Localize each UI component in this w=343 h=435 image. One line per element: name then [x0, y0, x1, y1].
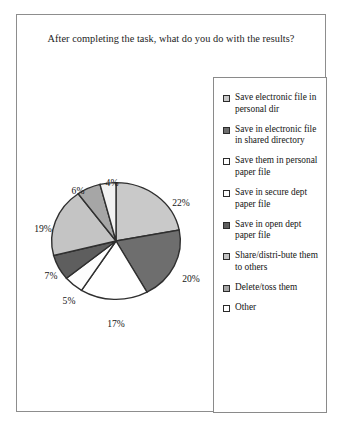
- legend-item: Save in secure dept paper file: [223, 187, 321, 210]
- legend-swatch-icon: [223, 305, 230, 312]
- pie-slice-label: 19%: [34, 223, 52, 234]
- legend-swatch-icon: [223, 253, 230, 260]
- chart-title: After completing the task, what do you d…: [17, 33, 325, 44]
- legend-swatch-icon: [223, 95, 230, 102]
- pie-slice-label: 7%: [45, 270, 58, 281]
- legend-swatch-icon: [223, 222, 230, 229]
- legend-item-label: Save them in personal paper file: [235, 155, 321, 178]
- pie-slice-label: 22%: [172, 197, 190, 208]
- pie-svg: [51, 182, 181, 300]
- legend-item: Share/distri-bute them to others: [223, 250, 321, 273]
- pie-slices: [52, 183, 181, 300]
- legend-swatch-icon: [223, 127, 230, 134]
- legend-item: Save them in personal paper file: [223, 155, 321, 178]
- pie-slice-label: 17%: [107, 318, 125, 329]
- legend: Save electronic file in personal dirSave…: [213, 77, 327, 413]
- legend-item: Other: [223, 302, 321, 314]
- legend-swatch-icon: [223, 158, 230, 165]
- legend-item-label: Share/distri-bute them to others: [235, 250, 321, 273]
- figure-frame: After completing the task, what do you d…: [16, 14, 326, 412]
- legend-item: Save in open dept paper file: [223, 219, 321, 242]
- legend-item-label: Other: [235, 302, 256, 314]
- legend-item: Save electronic file in personal dir: [223, 92, 321, 115]
- legend-item-label: Save in electronic file in shared direct…: [235, 124, 321, 147]
- legend-item-label: Save in open dept paper file: [235, 219, 321, 242]
- pie-slice-label: 6%: [72, 185, 85, 196]
- legend-swatch-icon: [223, 190, 230, 197]
- legend-list: Save electronic file in personal dirSave…: [223, 92, 321, 322]
- legend-item-label: Save electronic file in personal dir: [235, 92, 321, 115]
- pie-slice-label: 4%: [106, 177, 119, 188]
- legend-swatch-icon: [223, 285, 230, 292]
- legend-item-label: Save in secure dept paper file: [235, 187, 321, 210]
- legend-item: Delete/toss them: [223, 282, 321, 294]
- pie-slice-label: 5%: [63, 295, 76, 306]
- pie-chart: 22%20%17%5%7%19%6%4%: [29, 160, 207, 335]
- pie-slice-label: 20%: [182, 273, 200, 284]
- legend-item: Save in electronic file in shared direct…: [223, 124, 321, 147]
- legend-item-label: Delete/toss them: [235, 282, 297, 294]
